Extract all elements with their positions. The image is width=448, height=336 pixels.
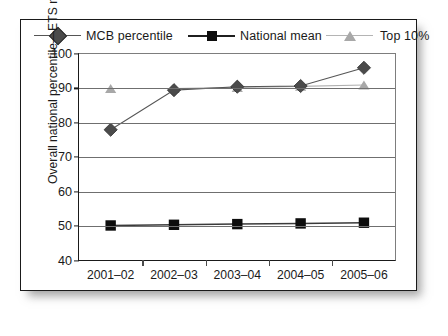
data-point-marker <box>167 84 180 97</box>
x-axis-tick-label: 2001–02 <box>87 268 134 282</box>
y-axis-tick-label: 60 <box>58 185 72 199</box>
y-axis-tick-label: 100 <box>51 47 72 61</box>
legend-label-mcb-percentile: MCB percentile <box>86 29 173 43</box>
x-axis-tick-label: 2004–05 <box>277 268 324 282</box>
y-axis-tick <box>74 226 79 227</box>
y-axis-tick <box>74 191 79 192</box>
data-point-marker <box>104 123 117 136</box>
x-axis-tick-label: 2005–06 <box>340 268 387 282</box>
legend-label-top-10-percent: Top 10% <box>380 29 429 43</box>
gridline <box>79 192 395 193</box>
y-axis-tick <box>74 53 79 54</box>
legend-item-top-10-percent: Top 10% <box>326 24 429 48</box>
x-axis-tick-label: 2002–03 <box>150 268 197 282</box>
legend-item-national-mean: National mean <box>188 24 322 48</box>
legend-label-national-mean: National mean <box>240 29 322 43</box>
x-axis-tick <box>332 260 333 266</box>
y-axis-tick <box>74 260 79 261</box>
data-point-marker <box>357 61 370 74</box>
x-axis-tick <box>206 260 207 266</box>
y-axis-tick <box>74 88 79 89</box>
gridline <box>79 226 395 227</box>
gridline <box>79 123 395 124</box>
y-axis-tick <box>74 157 79 158</box>
data-point-marker <box>232 219 242 229</box>
y-axis-tick-label: 80 <box>58 116 72 130</box>
triangle-marker-icon <box>326 30 373 42</box>
x-axis-tick-label: 2003–04 <box>214 268 261 282</box>
data-point-marker <box>169 220 179 230</box>
chart-legend: MCB percentile National mean Top 10% <box>21 24 416 48</box>
y-axis-tick-label: 90 <box>58 81 72 95</box>
x-axis-tick <box>142 260 143 266</box>
y-axis-tick-label: 40 <box>58 254 72 268</box>
y-axis-tick-label: 70 <box>58 150 72 164</box>
x-axis-tick <box>269 260 270 266</box>
y-axis-tick <box>74 122 79 123</box>
plot-area: 1009080706050402001–022002–032003–042004… <box>78 53 396 261</box>
plot-inner: 1009080706050402001–022002–032003–042004… <box>79 54 395 260</box>
gridline <box>79 88 395 89</box>
square-marker-icon <box>188 30 235 42</box>
series-line <box>111 68 364 130</box>
chart-card: MCB percentile National mean Top 10% Ove… <box>20 19 417 291</box>
gridline <box>79 157 395 158</box>
y-axis-tick-label: 50 <box>58 219 72 233</box>
